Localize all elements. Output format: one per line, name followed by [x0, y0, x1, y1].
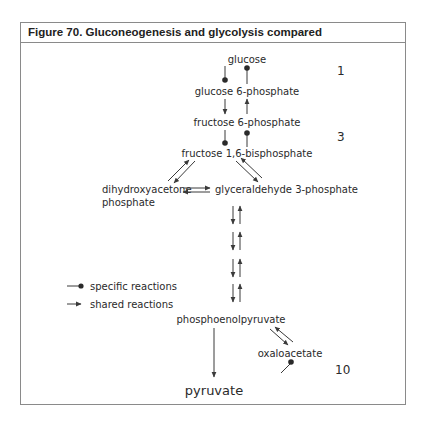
- legend-specific-label: specific reactions: [90, 281, 177, 292]
- legend-shared-label: shared reactions: [90, 299, 173, 310]
- step-number-10: 10: [335, 363, 350, 377]
- dot-icon: [222, 140, 228, 146]
- label-dihydroxyacetone-phosphate-2: phosphate: [102, 197, 155, 208]
- label-glucose: glucose: [228, 54, 266, 65]
- reaction-oxaloacetate-to-pep: [275, 327, 293, 342]
- dot-icon: [244, 65, 250, 71]
- label-fructose-1-6-bisphosphate: fructose 1,6-bisphosphate: [182, 148, 313, 159]
- pathway-diagram: glucose glucose 6-phosphate fructose 6-p…: [0, 0, 427, 425]
- label-fructose-6-phosphate: fructose 6-phosphate: [194, 117, 301, 128]
- label-pyruvate: pyruvate: [185, 383, 243, 398]
- dot-icon: [244, 130, 250, 136]
- dot-icon: [288, 359, 294, 365]
- step-number-1: 1: [337, 64, 345, 78]
- reaction-pep-to-oxaloacetate: [270, 329, 288, 345]
- shared-reaction-g3p-to-f16bp: [241, 158, 262, 178]
- label-glyceraldehyde-3-phosphate: glyceraldehyde 3-phosphate: [215, 184, 358, 195]
- legend-dot-icon: [78, 283, 83, 288]
- label-oxaloacetate: oxaloacetate: [258, 348, 323, 359]
- label-dihydroxyacetone-phosphate-1: dihydroxyacetone: [102, 184, 192, 195]
- specific-reaction-pyruvate-to-oxaloacetate: [281, 363, 291, 373]
- label-phosphoenolpyruvate: phosphoenolpyruvate: [176, 314, 285, 325]
- label-glucose-6-phosphate: glucose 6-phosphate: [195, 86, 300, 97]
- dot-icon: [222, 77, 228, 83]
- step-number-3: 3: [337, 130, 345, 144]
